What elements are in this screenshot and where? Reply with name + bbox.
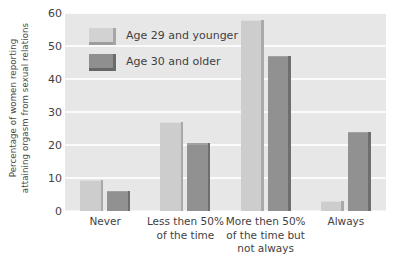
legend-entry-age-30-and-older: Age 30 and older xyxy=(89,49,269,75)
x-tick-label-more-then-50: More then 50%of the time butnot always xyxy=(226,215,306,256)
gridline-40 xyxy=(65,78,386,79)
plot-area: Age 29 and younger Age 30 and older xyxy=(65,13,386,211)
legend-label-age-29-and-younger: Age 29 and younger xyxy=(126,30,238,42)
y-tick-label-60: 60 xyxy=(36,8,62,19)
y-tick-label-40: 40 xyxy=(36,74,62,85)
bar xyxy=(268,56,291,211)
bar xyxy=(348,132,371,211)
y-axis-title-line-1: Percentage of women reporting xyxy=(8,22,20,192)
y-axis-title: Percentage of women reporting attaining … xyxy=(0,0,38,215)
y-tick-label-0: 0 xyxy=(36,206,62,217)
y-axis-tick-labels: 0102030405060 xyxy=(36,13,62,211)
y-tick-label-30: 30 xyxy=(36,107,62,118)
bar xyxy=(187,143,210,211)
gridline-60 xyxy=(65,13,386,14)
legend-swatch-icon-age-30-and-older xyxy=(89,54,116,71)
y-tick-label-50: 50 xyxy=(36,41,62,52)
legend: Age 29 and younger Age 30 and older xyxy=(89,23,269,75)
x-axis-tick-labels: NeverLess then 50%of the timeMore then 5… xyxy=(65,215,386,265)
legend-entry-age-29-and-younger: Age 29 and younger xyxy=(89,23,269,49)
x-tick-label-less-then-50: Less then 50%of the time xyxy=(145,215,225,242)
gridline-30 xyxy=(65,111,386,112)
y-tick-label-10: 10 xyxy=(36,173,62,184)
x-tick-label-never: Never xyxy=(65,215,145,229)
legend-label-age-30-and-older: Age 30 and older xyxy=(126,56,221,68)
bar xyxy=(80,180,103,211)
bar xyxy=(107,191,130,211)
x-tick-label-always: Always xyxy=(306,215,386,229)
y-axis-title-line-2: attaining orgasm from sexual relations xyxy=(19,22,31,192)
legend-swatch-icon-age-29-and-younger xyxy=(89,28,116,45)
gridline-10 xyxy=(65,177,386,178)
bar xyxy=(321,201,344,211)
gridline-20 xyxy=(65,144,386,145)
bar xyxy=(160,122,183,211)
bar-chart: Percentage of women reporting attaining … xyxy=(0,0,396,268)
y-tick-label-20: 20 xyxy=(36,140,62,151)
